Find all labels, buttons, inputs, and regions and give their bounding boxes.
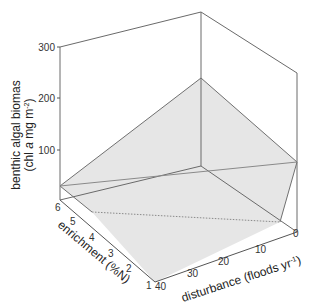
z-tick-200: 200 xyxy=(38,93,55,104)
surface-chart: 100 200 300 6 5 4 3 2 1 0 10 20 30 40 be… xyxy=(0,0,309,308)
y-tick-30: 30 xyxy=(187,268,199,279)
x-tick-6: 6 xyxy=(55,202,61,213)
svg-text:(chl a mg m-2): (chl a mg m-2) xyxy=(22,99,36,172)
z-axis-ticks: 100 200 300 xyxy=(38,42,60,156)
y-tick-40: 40 xyxy=(155,281,167,292)
z-tick-100: 100 xyxy=(38,145,55,156)
z-tick-300: 300 xyxy=(38,42,55,53)
z-axis-label: benthic algal biomas (chl a mg m-2) xyxy=(9,80,36,189)
y-tick-0: 0 xyxy=(293,228,299,239)
y-tick-10: 10 xyxy=(255,244,267,255)
x-tick-1: 1 xyxy=(146,280,152,291)
y-tick-20: 20 xyxy=(218,256,230,267)
svg-text:benthic algal biomas: benthic algal biomas xyxy=(9,80,23,189)
